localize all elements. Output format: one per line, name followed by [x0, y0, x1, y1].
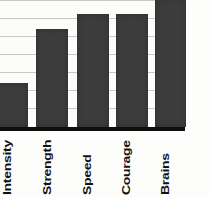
chart-bars — [0, 0, 186, 129]
category-label-brains: Brains — [160, 153, 170, 195]
bar-courage[interactable] — [116, 14, 148, 127]
category-label-courage: Courage — [121, 140, 131, 195]
bar-intensity[interactable] — [0, 83, 28, 127]
chart-title-stats: STATS — [186, 0, 210, 197]
stats-bar-chart-screenshot: Intensity Strength Speed Courage Brains … — [0, 0, 210, 197]
bar-speed[interactable] — [77, 14, 109, 127]
bar-strength[interactable] — [36, 29, 68, 127]
bar-brains[interactable] — [155, 0, 186, 127]
category-label-strength: Strength — [42, 140, 52, 195]
chart-plot-area — [0, 0, 186, 129]
chart-category-labels: Intensity Strength Speed Courage Brains — [0, 131, 186, 197]
chart-title-text: STATS — [186, 0, 188, 133]
category-label-intensity: Intensity — [2, 140, 12, 195]
category-label-speed: Speed — [82, 154, 92, 195]
